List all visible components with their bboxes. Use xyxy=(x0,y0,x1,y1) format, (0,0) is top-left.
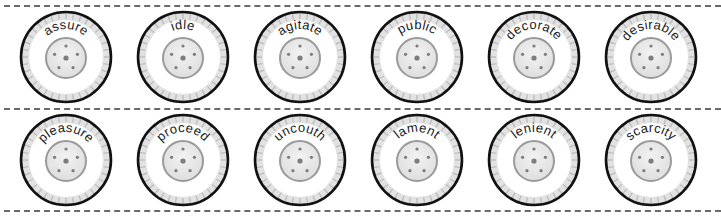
lug-bolt-icon xyxy=(544,156,547,159)
lug-bolt-icon xyxy=(310,53,313,56)
lug-bolt-icon xyxy=(649,44,652,47)
lug-bolt-icon xyxy=(53,53,56,56)
word-wheel: pleasure xyxy=(21,115,111,205)
lug-bolt-icon xyxy=(181,147,184,150)
word-wheel: public xyxy=(372,12,462,102)
lug-bolt-icon xyxy=(305,66,308,69)
word-wheel: idle xyxy=(138,12,228,102)
lug-bolt-icon xyxy=(661,53,664,56)
lug-bolt-icon xyxy=(71,169,74,172)
lug-bolt-icon xyxy=(525,66,528,69)
lug-bolt-icon xyxy=(310,156,313,159)
lug-bolt-icon xyxy=(649,147,652,150)
word-wheel: agitate xyxy=(255,12,345,102)
word-wheel: scarcity xyxy=(606,115,696,205)
lug-bolt-icon xyxy=(656,169,659,172)
lug-bolt-icon xyxy=(642,66,645,69)
lug-bolt-icon xyxy=(57,66,60,69)
center-bolt-icon xyxy=(180,158,185,163)
lug-bolt-icon xyxy=(539,66,542,69)
lug-bolt-icon xyxy=(415,44,418,47)
center-bolt-icon xyxy=(531,55,536,60)
lug-bolt-icon xyxy=(642,169,645,172)
lug-bolt-icon xyxy=(188,66,191,69)
lug-bolt-icon xyxy=(427,53,430,56)
lug-bolt-icon xyxy=(287,53,290,56)
lug-bolt-icon xyxy=(64,44,67,47)
lug-bolt-icon xyxy=(415,147,418,150)
lug-bolt-icon xyxy=(521,156,524,159)
lug-bolt-icon xyxy=(427,156,430,159)
lug-bolt-icon xyxy=(53,156,56,159)
center-bolt-icon xyxy=(648,55,653,60)
lug-bolt-icon xyxy=(298,44,301,47)
lug-bolt-icon xyxy=(291,66,294,69)
lug-bolt-icon xyxy=(76,53,79,56)
center-bolt-icon xyxy=(414,158,419,163)
lug-bolt-icon xyxy=(408,169,411,172)
lug-bolt-icon xyxy=(76,156,79,159)
lug-bolt-icon xyxy=(64,147,67,150)
lug-bolt-icon xyxy=(408,66,411,69)
center-bolt-icon xyxy=(297,55,302,60)
lug-bolt-icon xyxy=(404,156,407,159)
lug-bolt-icon xyxy=(170,156,173,159)
lug-bolt-icon xyxy=(656,66,659,69)
word-wheel: lament xyxy=(372,115,462,205)
lug-bolt-icon xyxy=(532,44,535,47)
center-bolt-icon xyxy=(63,158,68,163)
lug-bolt-icon xyxy=(188,169,191,172)
lug-bolt-icon xyxy=(525,169,528,172)
word-wheel: uncouth xyxy=(255,115,345,205)
center-bolt-icon xyxy=(180,55,185,60)
lug-bolt-icon xyxy=(521,53,524,56)
lug-bolt-icon xyxy=(638,156,641,159)
lug-bolt-icon xyxy=(661,156,664,159)
lug-bolt-icon xyxy=(422,66,425,69)
lug-bolt-icon xyxy=(422,169,425,172)
word-wheel: proceed xyxy=(138,115,228,205)
lug-bolt-icon xyxy=(170,53,173,56)
lug-bolt-icon xyxy=(532,147,535,150)
lug-bolt-icon xyxy=(298,147,301,150)
lug-bolt-icon xyxy=(181,44,184,47)
center-bolt-icon xyxy=(531,158,536,163)
word-wheel: desirable xyxy=(606,12,696,102)
word-wheel: decorate xyxy=(489,12,579,102)
lug-bolt-icon xyxy=(305,169,308,172)
lug-bolt-icon xyxy=(193,156,196,159)
lug-bolt-icon xyxy=(291,169,294,172)
lug-bolt-icon xyxy=(71,66,74,69)
lug-bolt-icon xyxy=(174,66,177,69)
center-bolt-icon xyxy=(297,158,302,163)
center-bolt-icon xyxy=(63,55,68,60)
word-wheel: lenient xyxy=(489,115,579,205)
word-wheel: assure xyxy=(21,12,111,102)
lug-bolt-icon xyxy=(544,53,547,56)
lug-bolt-icon xyxy=(539,169,542,172)
center-bolt-icon xyxy=(648,158,653,163)
center-bolt-icon xyxy=(414,55,419,60)
wheel-grid: assureidleagitatepublicdecoratedesirable… xyxy=(0,0,721,218)
lug-bolt-icon xyxy=(404,53,407,56)
lug-bolt-icon xyxy=(638,53,641,56)
lug-bolt-icon xyxy=(57,169,60,172)
lug-bolt-icon xyxy=(287,156,290,159)
lug-bolt-icon xyxy=(193,53,196,56)
lug-bolt-icon xyxy=(174,169,177,172)
